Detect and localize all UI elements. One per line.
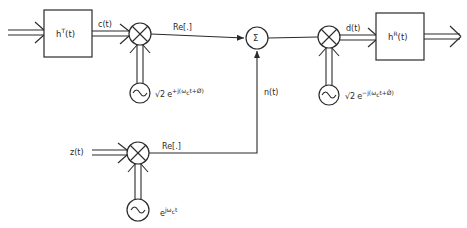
block-diagram: hT(t) c(t) √2e+j(ωct+Ø) Re[.] Σ: [0, 0, 467, 228]
oscillator-1-feed: [130, 45, 150, 83]
signal-d-label: d(t): [346, 24, 360, 33]
oscillator-3-sine-icon: [127, 199, 149, 221]
re-bottom-line: Re[.] n(t): [149, 51, 278, 153]
z-input-line: z(t): [70, 143, 127, 163]
signal-d-line: d(t): [340, 24, 376, 47]
signal-c-label: c(t): [98, 20, 112, 29]
receive-filter-block: hR(t): [376, 13, 424, 60]
oscillator-1-sine-icon: [130, 83, 150, 103]
summer-label: Σ: [253, 33, 258, 43]
input-double-arrow: [8, 22, 44, 43]
transmit-filter-label: hT(t): [56, 27, 75, 39]
oscillator-2-sine-icon: [319, 85, 339, 105]
signal-c-line: c(t): [92, 20, 129, 44]
signal-n-label: n(t): [264, 88, 278, 97]
mixer-1-multiply-icon: [129, 23, 151, 45]
mixer-3-multiply-icon: [127, 142, 149, 164]
re-top-line: Re[.]: [151, 23, 244, 38]
sum-output-line: [268, 37, 318, 38]
oscillator-2-feed: [319, 48, 339, 85]
signal-z-label: z(t): [70, 148, 84, 157]
transmit-filter-block: hT(t): [44, 10, 92, 57]
re-top-label: Re[.]: [173, 23, 192, 32]
oscillator-3-feed: [128, 164, 148, 199]
receive-filter-label: hR(t): [388, 30, 408, 42]
re-bottom-label: Re[.]: [162, 142, 181, 151]
summer-block: Σ: [246, 27, 268, 49]
noise-carrier-label: ejωct: [160, 206, 178, 218]
mixer-2-multiply-icon: [318, 26, 340, 48]
demodulator-carrier-label: √2e−j(ωct+Ø̂): [345, 89, 394, 101]
output-double-arrow: [424, 26, 461, 47]
modulator-carrier-label: √2e+j(ωct+Ø): [155, 87, 204, 99]
